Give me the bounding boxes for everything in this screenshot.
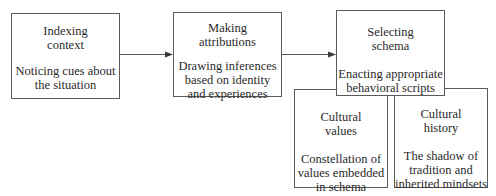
node-title-line: Selecting: [367, 25, 414, 39]
node-title: Selecting schema: [337, 25, 444, 53]
node-title-line: Cultural: [421, 107, 462, 121]
node-title: Indexing context: [12, 24, 119, 52]
node-description-line: and experiences: [187, 87, 267, 101]
node-indexing-context: Indexing context Noticing cues about the…: [11, 13, 120, 99]
node-description-line: Drawing inferences: [178, 59, 276, 73]
node-description-line: Constellation of: [301, 152, 381, 166]
node-description-line: Enacting appropriate: [338, 67, 442, 81]
node-making-attributions: Making attributions Drawing inferences b…: [173, 12, 282, 97]
node-cultural-values: Cultural values Constellation of values …: [294, 89, 388, 188]
node-description-line: Noticing cues about: [16, 64, 116, 78]
arrow-indexing-to-attributions: [120, 52, 173, 58]
node-description-line: values embedded: [298, 166, 384, 180]
node-title-line: Indexing: [43, 24, 87, 38]
node-title: Making attributions: [174, 21, 281, 49]
node-description-line: the situation: [35, 78, 96, 92]
node-title-line: Cultural: [321, 110, 362, 124]
node-description-line: in schema: [316, 180, 366, 194]
node-description: The shadow of tradition and inherited mi…: [395, 149, 487, 191]
node-description: Noticing cues about the situation: [12, 64, 119, 92]
node-selecting-schema: Selecting schema Enacting appropriate be…: [336, 10, 445, 96]
node-description: Enacting appropriate behavioral scripts: [337, 67, 444, 95]
node-description-line: based on identity: [185, 73, 270, 87]
node-description-line: inherited mindsets: [395, 177, 487, 191]
node-title: Cultural history: [395, 107, 487, 135]
node-title-line: schema: [372, 39, 409, 53]
node-description: Constellation of values embedded in sche…: [295, 152, 387, 194]
node-title: Cultural values: [295, 110, 387, 138]
node-description: Drawing inferences based on identity and…: [174, 59, 281, 101]
node-title-line: context: [47, 38, 84, 52]
node-description-line: The shadow of: [404, 149, 478, 163]
arrowhead-icon: [165, 52, 173, 58]
node-title-line: history: [424, 121, 459, 135]
arrowhead-icon: [328, 52, 336, 58]
node-title-line: Making: [208, 21, 247, 35]
node-description-line: tradition and: [409, 163, 473, 177]
arrow-attributions-to-schema: [282, 52, 336, 58]
node-description-line: behavioral scripts: [346, 81, 435, 95]
node-cultural-history: Cultural history The shadow of tradition…: [394, 88, 488, 188]
node-title-line: attributions: [199, 35, 256, 49]
node-title-line: values: [325, 124, 357, 138]
